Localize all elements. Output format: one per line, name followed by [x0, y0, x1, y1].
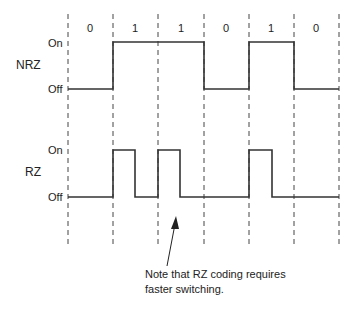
bit-labels: 0 1 1 0 1 0	[87, 22, 319, 34]
nrz-rz-diagram: 0 1 1 0 1 0 On NRZ Off On RZ Off Note th…	[0, 0, 354, 309]
note-line-2: faster switching.	[145, 283, 224, 295]
arrowhead-icon	[171, 216, 179, 229]
bit-label: 0	[87, 22, 93, 34]
note-line-1: Note that RZ coding requires	[145, 268, 286, 280]
rz-on-label: On	[48, 144, 63, 156]
rz-off-label: Off	[48, 191, 63, 203]
nrz-waveform	[68, 42, 339, 89]
bit-label: 1	[268, 22, 274, 34]
note-arrow	[167, 216, 179, 266]
rz-label: RZ	[25, 165, 41, 179]
bit-label: 1	[178, 22, 184, 34]
bit-label: 0	[223, 22, 229, 34]
nrz-on-label: On	[48, 37, 63, 49]
nrz-label: NRZ	[16, 58, 41, 72]
bit-label: 0	[313, 22, 319, 34]
bit-label: 1	[132, 22, 138, 34]
nrz-off-label: Off	[48, 83, 63, 95]
